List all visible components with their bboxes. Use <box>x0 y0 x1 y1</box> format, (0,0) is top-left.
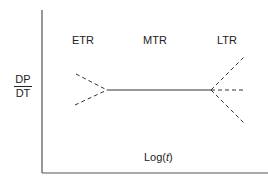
x-axis-label: Log(t) <box>144 151 173 163</box>
ltr-dashed-up <box>211 57 244 90</box>
y-label-numerator: DP <box>14 73 32 87</box>
y-axis-label: DP DT <box>14 73 32 100</box>
region-label-ltr: LTR <box>217 34 237 46</box>
ltr-dashed-down <box>211 90 244 123</box>
diagram-canvas <box>0 0 268 179</box>
y-label-denominator: DT <box>14 87 32 100</box>
etr-dashed-upper <box>76 74 107 90</box>
etr-dashed-lower <box>75 90 107 105</box>
x-label-prefix: Log( <box>144 151 166 163</box>
region-label-etr: ETR <box>72 34 94 46</box>
region-label-mtr: MTR <box>143 34 167 46</box>
x-label-suffix: ) <box>169 151 173 163</box>
